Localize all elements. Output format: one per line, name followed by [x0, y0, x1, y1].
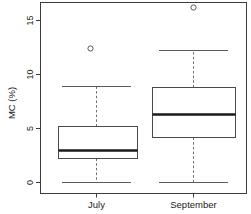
boxplot-figure: 0 5 10 15 MC (%) July September [0, 0, 251, 214]
y-tick-label-15: 15 [25, 15, 35, 25]
box-iqr-july [59, 127, 138, 159]
boxplot-canvas: 0 5 10 15 MC (%) July September [0, 0, 251, 214]
plot-panel-border [41, 3, 247, 194]
y-tick-label-0: 0 [25, 180, 35, 185]
box-group-september [153, 5, 236, 183]
box-iqr-september [153, 88, 236, 138]
x-category-label-july: July [88, 199, 105, 210]
outlier-point-july [88, 46, 93, 51]
y-tick-label-5: 5 [25, 126, 35, 131]
y-axis-title: MC (%) [6, 87, 17, 119]
y-axis-ticks [36, 21, 41, 183]
x-category-label-september: September [170, 199, 216, 210]
y-tick-label-10: 10 [25, 69, 35, 79]
box-group-july [59, 46, 138, 183]
outlier-point-september [191, 5, 196, 10]
x-axis [52, 194, 236, 198]
